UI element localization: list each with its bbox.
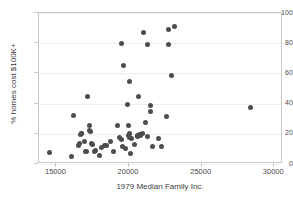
- y-axis-tick: [34, 72, 38, 73]
- data-point: [90, 142, 95, 147]
- data-point: [248, 105, 253, 110]
- data-point: [132, 142, 137, 147]
- data-point: [129, 136, 134, 141]
- data-point: [156, 136, 161, 141]
- data-point: [71, 113, 76, 118]
- data-point: [111, 149, 116, 154]
- data-point: [123, 146, 128, 151]
- x-axis-tick-label: 20000: [105, 168, 151, 176]
- data-point: [127, 131, 132, 136]
- plot-area: [38, 12, 282, 163]
- data-point: [97, 153, 102, 158]
- y-axis-tick: [34, 103, 38, 104]
- data-point: [145, 134, 150, 139]
- gridline: [39, 164, 281, 165]
- data-point: [166, 42, 171, 47]
- y-axis-tick-label: 40: [261, 99, 293, 106]
- data-point: [126, 123, 131, 128]
- data-point: [127, 79, 132, 84]
- x-axis-title: 1979 Median Family Inc.: [38, 182, 282, 191]
- y-axis-tick: [34, 12, 38, 13]
- data-point: [136, 94, 141, 99]
- y-axis-tick-label: 60: [261, 69, 293, 76]
- data-point: [159, 144, 164, 149]
- x-axis-tick-label: 15000: [32, 168, 78, 176]
- data-point: [88, 129, 93, 134]
- x-axis-tick-label: 30000: [250, 168, 293, 176]
- data-point: [150, 144, 155, 149]
- data-point: [84, 149, 89, 154]
- data-point: [93, 148, 98, 153]
- data-point: [169, 73, 174, 78]
- data-point: [148, 103, 153, 108]
- data-point: [128, 151, 133, 156]
- y-axis-tick-label: 80: [261, 39, 293, 46]
- y-axis-tick-label: 20: [261, 129, 293, 136]
- data-point: [140, 131, 145, 136]
- y-axis-tick: [34, 42, 38, 43]
- data-point: [145, 42, 150, 47]
- y-axis-title: % homes cost $100K+: [9, 24, 18, 144]
- data-point: [69, 154, 74, 159]
- data-point: [164, 114, 169, 119]
- data-point: [82, 139, 87, 144]
- data-point: [115, 123, 120, 128]
- y-axis-tick: [34, 163, 38, 164]
- data-point: [85, 94, 90, 99]
- data-point: [47, 150, 52, 155]
- data-point: [121, 63, 126, 68]
- data-point: [108, 139, 113, 144]
- data-point: [79, 131, 84, 136]
- y-axis-tick: [34, 133, 38, 134]
- data-point: [125, 102, 130, 107]
- y-axis-tick-label: 0: [261, 160, 293, 167]
- data-point: [166, 27, 171, 32]
- data-point: [119, 137, 124, 142]
- data-point: [119, 41, 124, 46]
- data-points-layer: [39, 13, 281, 162]
- data-point: [148, 109, 153, 114]
- x-axis-tick-label: 25000: [178, 168, 224, 176]
- scatter-plot-figure: 020406080100 15000200002500030000 1979 M…: [0, 0, 293, 199]
- data-point: [143, 120, 148, 125]
- y-axis-title-wrap: % homes cost $100K+: [0, 0, 14, 175]
- data-point: [141, 30, 146, 35]
- data-point: [172, 24, 177, 29]
- y-axis-tick-label: 100: [261, 9, 293, 16]
